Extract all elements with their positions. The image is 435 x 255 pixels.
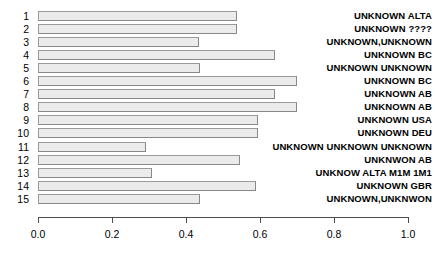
bar-row: 15UNKNOWN,UNKNWON: [0, 193, 435, 206]
x-axis-tick-label: 0.4: [166, 226, 206, 242]
bar-row: 9UNKNOWN USA: [0, 114, 435, 127]
bar-right-label: UNKNOWN UNKNOWN UNKNOWN: [272, 140, 432, 154]
bar: [38, 194, 200, 204]
x-axis-tick: [334, 217, 335, 223]
row-number: 9: [0, 114, 29, 127]
bar: [38, 102, 297, 112]
bar-right-label: UNKNOWN USA: [358, 113, 432, 127]
bar: [38, 37, 199, 47]
x-axis-tick: [112, 217, 113, 223]
row-number: 6: [0, 75, 29, 88]
bar-row: 2UNKNOWN ????: [0, 23, 435, 36]
row-number: 5: [0, 62, 29, 75]
bar-row: 6UNKNOWN BC: [0, 75, 435, 88]
bar-right-label: UNKNOWN GBR: [356, 179, 432, 193]
bar-right-label: UNKNOWN DEU: [358, 126, 432, 140]
horizontal-bar-chart: 1UNKNOWN ALTA2UNKNOWN ????3UNKNOWN,UNKNO…: [0, 0, 435, 255]
bar-row: 3UNKNOWN,UNKNOWN: [0, 36, 435, 49]
row-number: 7: [0, 88, 29, 101]
bar: [38, 24, 237, 34]
row-number: 2: [0, 23, 29, 36]
row-number: 8: [0, 101, 29, 114]
bar-row: 14UNKNOWN GBR: [0, 180, 435, 193]
bar-rows: 1UNKNOWN ALTA2UNKNOWN ????3UNKNOWN,UNKNO…: [0, 0, 435, 206]
x-axis-tick: [260, 217, 261, 223]
bar-right-label: UNKNOWN ALTA: [354, 9, 432, 23]
bar: [38, 128, 258, 138]
bar: [38, 181, 256, 191]
bar-row: 7UNKNOWN AB: [0, 88, 435, 101]
bar: [38, 11, 237, 21]
bar-right-label: UNKNOWN,UNKNWON: [327, 192, 432, 206]
bar: [38, 63, 200, 73]
bar-row: 10UNKNOWN DEU: [0, 127, 435, 140]
x-axis-tick: [408, 217, 409, 223]
bar-right-label: UNKNOWN ????: [354, 22, 432, 36]
bar-right-label: UNKNOWN AB: [364, 87, 432, 101]
row-number: 4: [0, 49, 29, 62]
x-axis-line: [38, 217, 408, 218]
x-axis-tick-label: 0.2: [92, 226, 132, 242]
x-axis-tick-label: 0.0: [18, 226, 58, 242]
row-number: 3: [0, 36, 29, 49]
x-axis-tick-label: 1.0: [388, 226, 428, 242]
bar-row: 8UNKNOWN AB: [0, 101, 435, 114]
bar-right-label: UNKNOWN UNKNOWN: [327, 61, 432, 75]
x-axis-tick-label: 0.8: [314, 226, 354, 242]
x-axis-tick: [186, 217, 187, 223]
bar-right-label: UNKNOWN BC: [364, 74, 432, 88]
row-number: 13: [0, 167, 29, 180]
x-axis-tick: [38, 217, 39, 223]
bar-row: 1UNKNOWN ALTA: [0, 10, 435, 23]
bar-row: 11UNKNOWN UNKNOWN UNKNOWN: [0, 141, 435, 154]
bar: [38, 89, 275, 99]
x-axis-tick-label: 0.6: [240, 226, 280, 242]
bar: [38, 155, 240, 165]
bar: [38, 168, 152, 178]
row-number: 12: [0, 154, 29, 167]
x-axis: [0, 212, 435, 226]
bar-row: 5UNKNOWN UNKNOWN: [0, 62, 435, 75]
bar-right-label: UNKNOWN BC: [364, 48, 432, 62]
bar-row: 12UNKNWON AB: [0, 154, 435, 167]
bar: [38, 76, 297, 86]
bar-row: 4UNKNOWN BC: [0, 49, 435, 62]
x-axis-tick-labels: 0.00.20.40.60.81.0: [0, 226, 435, 242]
row-number: 1: [0, 10, 29, 23]
bar-right-label: UNKNWON AB: [364, 153, 432, 167]
bar-right-label: UNKNOWN,UNKNOWN: [327, 35, 432, 49]
row-number: 14: [0, 180, 29, 193]
bar: [38, 115, 258, 125]
bar-right-label: UNKNOWN AB: [364, 100, 432, 114]
row-number: 10: [0, 127, 29, 140]
bar-right-label: UNKNOW ALTA M1M 1M1: [316, 166, 432, 180]
row-number: 15: [0, 193, 29, 206]
bar-row: 13UNKNOW ALTA M1M 1M1: [0, 167, 435, 180]
bar: [38, 142, 146, 152]
bar: [38, 50, 275, 60]
row-number: 11: [0, 141, 29, 154]
